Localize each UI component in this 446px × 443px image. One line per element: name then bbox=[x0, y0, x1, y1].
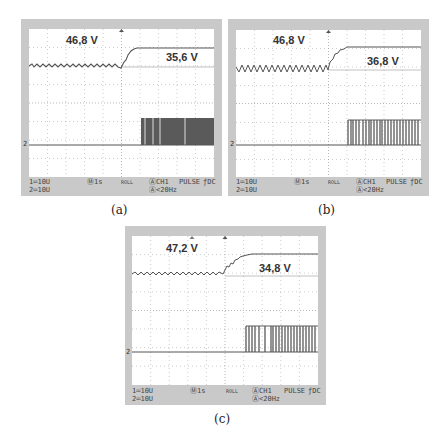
ch1-scale-b: 1═10U bbox=[236, 178, 257, 186]
status-bar-a: 1═10U 2═10U Ⓜ1s ROLL ⒶCH1 PULSE ƒDC Ⓐ<20… bbox=[29, 178, 214, 196]
status-bar-b: 1═10U 2═10U Ⓜ1s ROLL ⒶCH1 PULSE ƒDC Ⓐ<20… bbox=[236, 178, 421, 196]
voltage-label-lower-b: 36,8 V bbox=[367, 55, 399, 67]
trigger-type-a: PULSE bbox=[179, 178, 200, 186]
mode-b: ROLL bbox=[328, 178, 340, 186]
status-bar-c: 1═10U 2═10U Ⓜ1s ROLL ⒶCH1 PULSE ƒDC Ⓐ<20… bbox=[132, 387, 318, 405]
scope-panel-c: 47,2 V 34,8 V 2 1═10U 2═10U Ⓜ1s ROLL ⒶCH… bbox=[125, 226, 326, 405]
scope-panel-b: 46,8 V 36,8 V 2 1═10U 2═10U Ⓜ1s ROLL ⒶCH… bbox=[228, 19, 429, 196]
trigger-src-a: ⒶCH1 bbox=[149, 178, 169, 186]
voltage-label-upper-c: 47,2 V bbox=[166, 242, 198, 254]
ch1-scale-c: 1═10U bbox=[132, 387, 153, 395]
trigger-cond-a: Ⓐ<20Hz bbox=[149, 186, 177, 194]
trigger-src-b: ⒶCH1 bbox=[356, 178, 376, 186]
coupling-b: ƒDC bbox=[410, 178, 423, 186]
caption-b: (b) bbox=[318, 203, 335, 217]
voltage-label-lower-c: 34,8 V bbox=[259, 262, 291, 274]
mode-a: ROLL bbox=[121, 178, 133, 186]
channel-marker-b: 2 bbox=[230, 140, 234, 148]
channel-marker-a: 2 bbox=[23, 140, 27, 148]
voltage-label-upper-b: 46,8 V bbox=[273, 34, 305, 46]
voltage-label-lower-a: 35,6 V bbox=[166, 51, 198, 63]
channel-marker-c: 2 bbox=[126, 348, 130, 356]
ch2-scale-b: 2═10U bbox=[236, 186, 257, 194]
timebase-a: Ⓜ1s bbox=[87, 178, 102, 186]
mode-c: ROLL bbox=[226, 387, 238, 395]
coupling-a: ƒDC bbox=[203, 178, 216, 186]
ch2-scale-a: 2═10U bbox=[29, 186, 50, 194]
trigger-cond-b: Ⓐ<20Hz bbox=[356, 186, 384, 194]
voltage-label-upper-a: 46,8 V bbox=[66, 34, 98, 46]
waveform-plot-b bbox=[236, 30, 421, 177]
trigger-type-c: PULSE bbox=[284, 387, 305, 395]
caption-a: (a) bbox=[111, 203, 128, 217]
trigger-cond-c: Ⓐ<20Hz bbox=[252, 395, 280, 403]
scope-screen-b: 46,8 V 36,8 V bbox=[236, 30, 421, 177]
scope-screen-c: 47,2 V 34,8 V bbox=[132, 236, 318, 385]
caption-c: (c) bbox=[214, 412, 230, 426]
coupling-c: ƒDC bbox=[308, 387, 321, 395]
timebase-c: Ⓜ1s bbox=[190, 387, 205, 395]
scope-screen-a: 46,8 V 35,6 V bbox=[29, 29, 214, 177]
scope-panel-a: 46,8 V 35,6 V 2 1═10U 2═10U Ⓜ1s ROLL ⒶCH… bbox=[21, 19, 222, 196]
timebase-b: Ⓜ1s bbox=[294, 178, 309, 186]
ch1-scale-a: 1═10U bbox=[29, 178, 50, 186]
trigger-type-b: PULSE bbox=[386, 178, 407, 186]
waveform-plot-c bbox=[132, 236, 318, 385]
trigger-src-c: ⒶCH1 bbox=[252, 387, 272, 395]
ch2-scale-c: 2═10U bbox=[132, 395, 153, 403]
